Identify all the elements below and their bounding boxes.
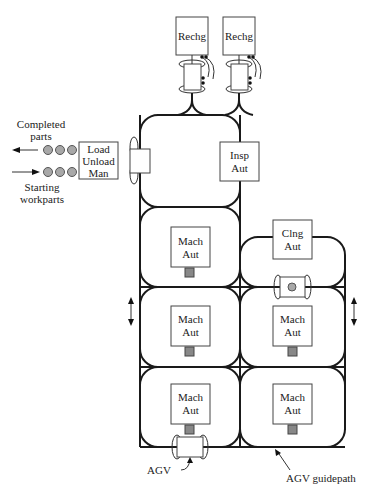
machine-station-2: Mach Aut bbox=[171, 306, 210, 356]
starting-workparts-flow: Starting workparts bbox=[12, 168, 77, 206]
guidepath-callout: AGV guidepath bbox=[275, 449, 356, 484]
svg-text:Starting: Starting bbox=[25, 181, 60, 193]
cleaning-station: Clng Aut bbox=[273, 220, 312, 259]
arrow-right-icon bbox=[32, 169, 40, 175]
svg-text:parts: parts bbox=[30, 130, 51, 142]
machine-station-5: Mach Aut bbox=[273, 384, 312, 434]
agv-at-recharge-2 bbox=[226, 55, 252, 93]
machine-station-1: Mach Aut bbox=[171, 227, 210, 277]
svg-text:Mach: Mach bbox=[178, 391, 204, 403]
svg-text:Aut: Aut bbox=[231, 162, 248, 174]
recharge-station-2: Rechg bbox=[223, 17, 261, 93]
double-arrow-right-icon bbox=[351, 297, 357, 326]
agv-callout: AGV bbox=[147, 457, 193, 476]
double-arrow-left-icon bbox=[128, 297, 134, 326]
svg-text:Aut: Aut bbox=[284, 240, 301, 252]
agv-with-part bbox=[274, 275, 311, 299]
machine-station-3: Mach Aut bbox=[273, 306, 312, 356]
recharge-station-1: Rechg bbox=[176, 17, 214, 93]
arrow-left-icon bbox=[12, 147, 20, 153]
machine-station-4: Mach Aut bbox=[171, 384, 210, 434]
svg-text:Completed: Completed bbox=[17, 118, 66, 130]
svg-text:workparts: workparts bbox=[20, 193, 64, 205]
svg-text:Insp: Insp bbox=[230, 149, 249, 161]
svg-text:Mach: Mach bbox=[280, 313, 306, 325]
inspection-station: Insp Aut bbox=[220, 142, 259, 181]
svg-text:AGV: AGV bbox=[147, 464, 171, 476]
svg-text:Aut: Aut bbox=[182, 326, 199, 338]
svg-text:Mach: Mach bbox=[178, 235, 204, 247]
svg-text:Mach: Mach bbox=[280, 391, 306, 403]
recharge-label-1: Rechg bbox=[178, 30, 207, 42]
svg-text:Aut: Aut bbox=[182, 248, 199, 260]
svg-text:Aut: Aut bbox=[182, 404, 199, 416]
svg-text:Aut: Aut bbox=[284, 326, 301, 338]
svg-text:Unload: Unload bbox=[82, 155, 115, 167]
agv-at-recharge-1 bbox=[179, 55, 205, 93]
svg-text:AGV guidepath: AGV guidepath bbox=[286, 472, 356, 484]
svg-text:Man: Man bbox=[88, 167, 109, 179]
completed-parts-flow: Completed parts bbox=[12, 118, 77, 155]
svg-text:Clng: Clng bbox=[282, 227, 304, 239]
svg-text:Aut: Aut bbox=[284, 404, 301, 416]
svg-text:Mach: Mach bbox=[178, 313, 204, 325]
recharge-spurs bbox=[178, 93, 253, 115]
agv-bottom bbox=[172, 435, 208, 459]
recharge-label-2: Rechg bbox=[225, 30, 254, 42]
fms-layout-diagram: Rechg Rechg bbox=[0, 0, 374, 493]
svg-text:Load: Load bbox=[87, 143, 110, 155]
